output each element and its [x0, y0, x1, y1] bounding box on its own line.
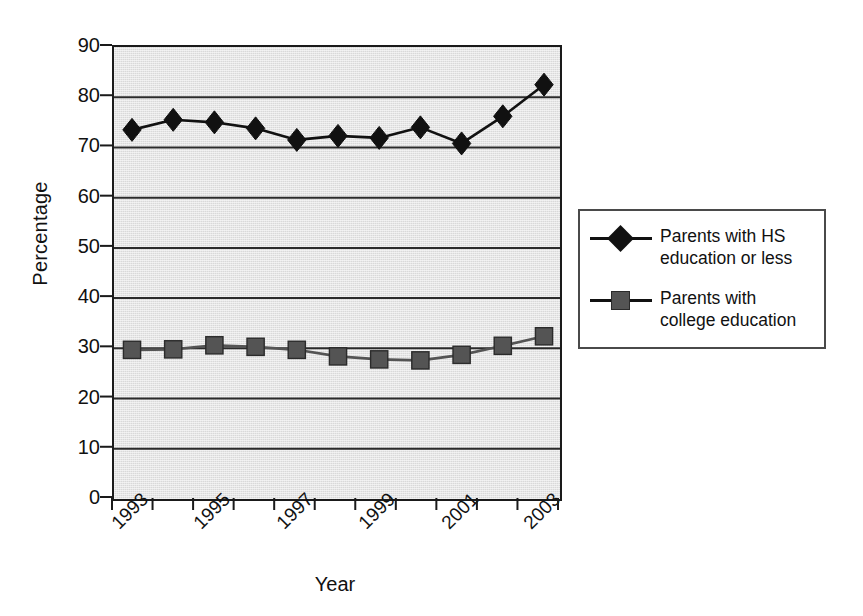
- legend-item-college: Parents with college education: [580, 287, 824, 332]
- x-tick-label: 2003: [520, 489, 563, 532]
- legend-label-hs: Parents with HS education or less: [652, 225, 824, 270]
- legend-key-college: [590, 287, 652, 313]
- legend-label-hs-line1: Parents with HS: [660, 225, 818, 247]
- legend-label-college: Parents with college education: [652, 287, 824, 332]
- x-tick-label: 1995: [190, 489, 233, 532]
- chart-legend: Parents with HS education or less Parent…: [578, 209, 826, 349]
- legend-label-hs-line2: education or less: [660, 247, 818, 269]
- diamond-marker-icon: [607, 225, 634, 252]
- chart-figure: Percentage 9080706050403020100 199319951…: [0, 0, 863, 616]
- x-tick-label: 1999: [355, 489, 398, 532]
- square-marker-icon: [611, 291, 630, 310]
- legend-label-college-line1: Parents with: [660, 287, 818, 309]
- x-tick-label: 1997: [273, 489, 316, 532]
- legend-label-college-line2: college education: [660, 309, 818, 331]
- legend-item-hs: Parents with HS education or less: [580, 225, 824, 270]
- x-tick-label: 2001: [438, 489, 481, 532]
- x-tick-label: 1993: [108, 489, 151, 532]
- legend-key-hs: [590, 225, 652, 251]
- x-axis-title: Year: [112, 573, 558, 596]
